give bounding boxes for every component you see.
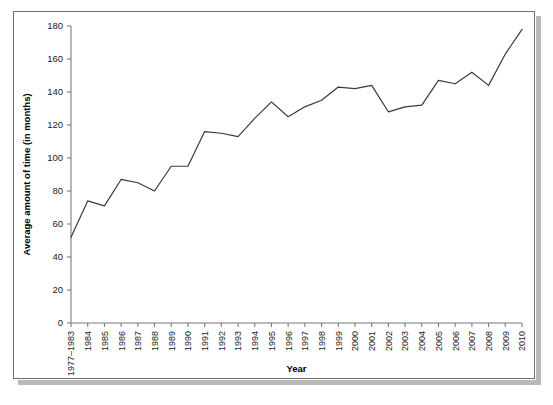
- series-line: [71, 29, 522, 237]
- x-axis-tick-label: 1998: [317, 331, 327, 351]
- x-axis-tick-label: 1977–1983: [66, 331, 76, 376]
- x-axis-tick-label: 2007: [467, 331, 477, 351]
- x-axis-tick-label: 1989: [167, 331, 177, 351]
- x-axis-tick-label: 1999: [334, 331, 344, 351]
- data-series-line: [71, 29, 522, 237]
- x-axis-tick-label: 2002: [384, 331, 394, 351]
- line-chart-plot: 020406080100120140160180 1977–1983198419…: [0, 0, 553, 405]
- y-axis-tick-label: 60: [52, 218, 63, 229]
- x-axis-tick-label: 1997: [300, 331, 310, 351]
- y-axis: 020406080100120140160180: [47, 20, 71, 328]
- x-axis-title: Year: [286, 363, 306, 374]
- x-axis-tick-label: 2003: [400, 331, 410, 351]
- x-axis-tick-label: 2006: [451, 331, 461, 351]
- x-axis-tick-label: 1987: [133, 331, 143, 351]
- x-axis-tick-label: 1988: [150, 331, 160, 351]
- x-axis-tick-label: 1996: [284, 331, 294, 351]
- x-axis-tick-label: 2001: [367, 331, 377, 351]
- x-axis-tick-label: 1995: [267, 331, 277, 351]
- x-axis-tick-label: 2008: [484, 331, 494, 351]
- y-axis-tick-label: 20: [52, 284, 63, 295]
- y-axis-tick-label: 160: [47, 53, 63, 64]
- y-axis-tick-label: 120: [47, 119, 63, 130]
- x-axis-tick-label: 2009: [501, 331, 511, 351]
- y-axis-tick-label: 80: [52, 185, 63, 196]
- x-axis-tick-label: 1990: [183, 331, 193, 351]
- x-axis-tick-label: 1986: [117, 331, 127, 351]
- y-axis-tick-label: 100: [47, 152, 63, 163]
- chart-figure: 020406080100120140160180 1977–1983198419…: [0, 0, 553, 405]
- x-axis-tick-label: 1994: [250, 331, 260, 351]
- x-axis-tick-label: 2000: [350, 331, 360, 351]
- x-axis-tick-label: 1985: [100, 331, 110, 351]
- y-axis-tick-label: 0: [58, 317, 63, 328]
- x-axis-tick-label: 1991: [200, 331, 210, 351]
- x-axis-tick-label: 2005: [434, 331, 444, 351]
- x-axis-tick-label: 1984: [83, 331, 93, 351]
- y-axis-title: Average amount of time (in months): [21, 93, 32, 255]
- y-axis-tick-label: 40: [52, 251, 63, 262]
- y-axis-tick-label: 180: [47, 20, 63, 31]
- y-axis-tick-label: 140: [47, 86, 63, 97]
- x-axis-tick-label: 1993: [233, 331, 243, 351]
- x-axis-tick-label: 1992: [217, 331, 227, 351]
- x-axis-tick-label: 2004: [417, 331, 427, 351]
- x-axis-tick-label: 2010: [517, 331, 527, 351]
